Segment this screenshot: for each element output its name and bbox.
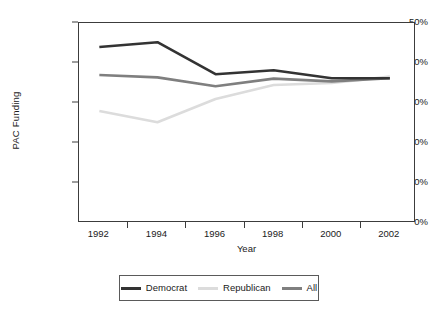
series-line-democrat [99, 42, 390, 78]
x-axis-tick-label: 2000 [320, 229, 341, 239]
x-axis-title-label: Year [237, 243, 256, 254]
x-axis-tick-label: 1998 [262, 229, 283, 239]
legend-item-republican: Republican [198, 283, 271, 293]
legend-label: Democrat [146, 283, 187, 293]
legend-swatch-republican [198, 287, 218, 290]
chart-figure: PAC Funding 0%10%20%30%40%50% 1992199419… [0, 0, 436, 320]
y-axis-title: PAC Funding [0, 0, 30, 240]
series-line-all [99, 75, 390, 86]
x-axis-tick-label: 1994 [146, 229, 167, 239]
series-lines [79, 23, 416, 223]
legend-swatch-all [282, 287, 302, 290]
plot-area [78, 22, 415, 222]
x-axis-tick-label: 1996 [204, 229, 225, 239]
legend-label: All [307, 283, 318, 293]
chart-legend: DemocratRepublicanAll [119, 275, 319, 301]
x-axis-tick-label: 2002 [378, 229, 399, 239]
legend-item-all: All [282, 283, 318, 293]
legend-swatch-democrat [121, 287, 141, 290]
legend-label: Republican [223, 283, 271, 293]
x-axis-title: Year [78, 243, 415, 254]
legend-item-democrat: Democrat [121, 283, 187, 293]
x-axis-tick-label: 1992 [88, 229, 109, 239]
y-axis-title-label: PAC Funding [10, 91, 21, 149]
